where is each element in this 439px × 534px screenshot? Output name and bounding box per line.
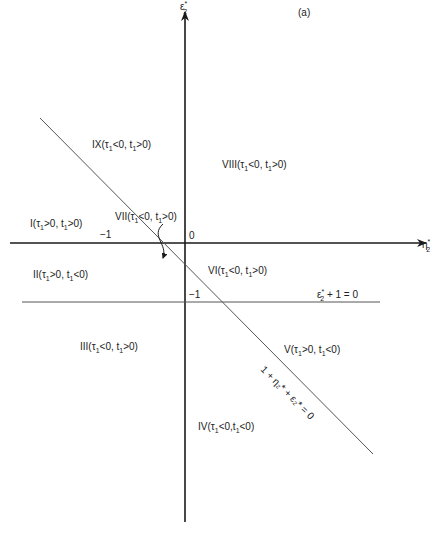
horizontal-line-equation: ε*2 + 1 = 0 bbox=[317, 288, 358, 302]
region-label-IV: IV(τ1<0,t1<0) bbox=[198, 421, 254, 434]
svg-text:VI(τ1<0, t1>0): VI(τ1<0, t1>0) bbox=[208, 265, 267, 278]
diagonal-line-equation: 1 + η₂* + ε₂* = 0 bbox=[259, 364, 317, 422]
region-label-V: V(τ1>0, t1<0) bbox=[284, 344, 340, 357]
region-label-VI: VI(τ1<0, t1>0) bbox=[208, 265, 267, 278]
svg-text:III(τ1<0, t1>0): III(τ1<0, t1>0) bbox=[80, 341, 138, 354]
svg-text:I(τ1>0, t1>0): I(τ1>0, t1>0) bbox=[30, 218, 82, 231]
pointer-arrow-icon bbox=[158, 224, 164, 258]
region-label-II: II(τ1>0, t1<0) bbox=[33, 269, 88, 282]
origin-label: 0 bbox=[189, 230, 195, 241]
svg-text:VIII(τ1<0, t1>0): VIII(τ1<0, t1>0) bbox=[222, 159, 287, 172]
x-axis-label: η*2 bbox=[422, 238, 431, 253]
diagram-canvas: ε*2 η*2 (a) 0 −1 −1 ε*2 + 1 = 0 1 + η₂* … bbox=[0, 0, 439, 534]
region-diagram: ε*2 η*2 (a) 0 −1 −1 ε*2 + 1 = 0 1 + η₂* … bbox=[0, 0, 439, 534]
y-axis-label: ε*2 bbox=[180, 0, 187, 15]
svg-text:VII(τ1<0, t1>0): VII(τ1<0, t1>0) bbox=[115, 211, 177, 224]
region-label-I: I(τ1>0, t1>0) bbox=[30, 218, 82, 231]
region-label-VIII: VIII(τ1<0, t1>0) bbox=[222, 159, 287, 172]
svg-text:IV(τ1<0,t1<0): IV(τ1<0,t1<0) bbox=[198, 421, 254, 434]
region-label-III: III(τ1<0, t1>0) bbox=[80, 341, 138, 354]
svg-text:IX(τ1<0, t1>0): IX(τ1<0, t1>0) bbox=[92, 139, 151, 152]
region-label-VII: VII(τ1<0, t1>0) bbox=[115, 211, 177, 224]
diagonal-boundary-line bbox=[40, 118, 373, 454]
region-label-IX: IX(τ1<0, t1>0) bbox=[92, 139, 151, 152]
svg-text:V(τ1>0, t1<0): V(τ1>0, t1<0) bbox=[284, 344, 340, 357]
svg-text:II(τ1>0, t1<0): II(τ1>0, t1<0) bbox=[33, 269, 88, 282]
x-intercept-label: −1 bbox=[100, 229, 112, 240]
y-intercept-label: −1 bbox=[189, 289, 201, 300]
panel-label: (a) bbox=[298, 7, 310, 18]
